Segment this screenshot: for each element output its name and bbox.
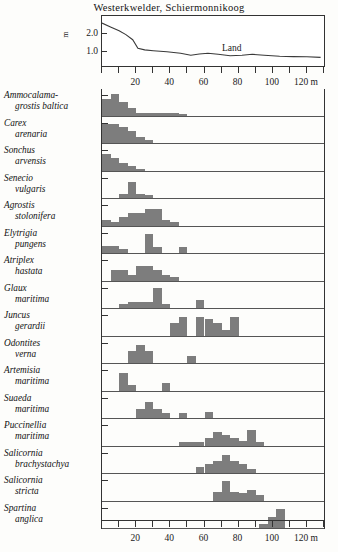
species-name-line1: Spartina [4, 503, 36, 513]
species-histogram [101, 227, 325, 255]
species-name-line1: Carex [4, 118, 26, 128]
histogram-bar [247, 430, 256, 445]
y-tick-mark-1 [101, 51, 107, 52]
species-histogram [101, 419, 325, 447]
histogram-bar [111, 246, 120, 253]
row-axis-tick [102, 233, 108, 234]
species-histogram [101, 89, 325, 117]
species-name: Glauxmaritima [4, 283, 100, 305]
species-name: Carexarenaria [4, 118, 100, 140]
row-axis-tick [102, 425, 108, 426]
species-name-line1: Juncus [4, 310, 30, 320]
species-row: Sonchusarvensis [0, 144, 338, 172]
species-name: Suaedamaritima [4, 393, 100, 415]
species-histogram [101, 309, 325, 337]
species-histogram [101, 254, 325, 282]
histogram-bar [119, 217, 128, 226]
species-row: Odontitesverna [0, 337, 338, 365]
histogram-bar [179, 317, 188, 336]
species-row: Ammocalama-grostis baltica [0, 89, 338, 117]
histogram-bar [213, 323, 222, 336]
x-tick-label: 80 [233, 77, 243, 87]
species-rows: Ammocalama-grostis balticaCarexarenariaS… [0, 89, 338, 529]
bottom-axis-ticks [101, 521, 325, 531]
histogram-bar [239, 464, 248, 473]
histogram-bar [119, 270, 128, 280]
top-axis-labels: 20406080100120 m [0, 77, 338, 89]
x-tick-label: 120 m [294, 77, 318, 87]
species-name-line2: brachystachya [4, 459, 100, 470]
axis-tick [135, 67, 136, 73]
histogram-bar [128, 182, 137, 198]
axis-tick [152, 67, 153, 73]
axis-tick [289, 521, 290, 527]
histogram-bar [162, 383, 171, 391]
species-name-line2: maritima [4, 431, 100, 442]
species-name: Seneciovulgaris [4, 173, 100, 195]
histogram-bar [153, 288, 162, 308]
species-name-line1: Glaux [4, 283, 27, 293]
species-name: Artemisiamaritima [4, 365, 100, 387]
histogram-bar [136, 345, 145, 363]
histogram-bar [170, 323, 179, 336]
species-name-line2: vulgaris [4, 184, 100, 195]
species-name: Odontitesverna [4, 338, 100, 360]
figure-container: Westerkwelder, Schiermonnikoog Land Sea … [0, 0, 338, 552]
row-axis-tick [102, 150, 108, 151]
species-name: Salicorniabrachystachya [4, 448, 100, 470]
species-histogram [101, 172, 325, 200]
species-name-line1: Artemisia [4, 365, 40, 375]
axis-tick [238, 67, 239, 73]
species-row: Salicorniastricta [0, 474, 338, 502]
species-row: Juncusgerardii [0, 309, 338, 337]
row-axis-tick [102, 508, 108, 509]
histogram-bar [205, 438, 214, 446]
x-tick-label: 100 [265, 533, 279, 543]
histogram-bar [153, 270, 162, 280]
row-axis-tick [102, 453, 108, 454]
species-row: Suaedamaritima [0, 392, 338, 420]
species-histogram [101, 474, 325, 502]
axis-tick [169, 67, 170, 73]
axis-tick [289, 67, 290, 73]
histogram-bar [145, 234, 154, 253]
y-tick-label-1: 1.0 [72, 46, 98, 56]
histogram-bar [136, 213, 145, 225]
species-name-line1: Senecio [4, 173, 33, 183]
species-name-line2: maritima [4, 294, 100, 305]
row-axis-tick [102, 480, 108, 481]
axis-tick [221, 67, 222, 73]
axis-tick [204, 521, 205, 527]
histogram-bar [145, 266, 154, 281]
histogram-bar [213, 492, 222, 501]
histogram-bar [153, 409, 162, 418]
histogram-bar [230, 492, 239, 501]
axis-tick [101, 67, 102, 73]
histogram-bar [102, 99, 111, 115]
axis-tick [238, 521, 239, 527]
histogram-bar [247, 490, 256, 501]
histogram-bar [222, 455, 231, 474]
histogram-bar [213, 432, 222, 446]
axis-tick [118, 521, 119, 527]
species-name-line2: arvensis [4, 156, 100, 167]
histogram-bar [102, 246, 111, 253]
axis-tick [135, 521, 136, 527]
histogram-bar [119, 163, 128, 171]
axis-tick [323, 521, 324, 527]
species-name: Juncusgerardii [4, 310, 100, 332]
species-name-line2: maritima [4, 376, 100, 387]
species-row: Artemisiamaritima [0, 364, 338, 392]
histogram-bar [205, 319, 214, 335]
row-axis-tick [102, 398, 108, 399]
species-histogram [101, 447, 325, 475]
species-name-line1: Elytrigia [4, 228, 37, 238]
species-name-line2: stricta [4, 486, 100, 497]
row-axis-tick [102, 343, 108, 344]
x-tick-label: 60 [199, 533, 209, 543]
species-histogram [101, 199, 325, 227]
axis-tick [186, 521, 187, 527]
histogram-bar [136, 409, 145, 418]
species-name-line1: Agrostis [4, 200, 35, 210]
species-row: Seneciovulgaris [0, 172, 338, 200]
